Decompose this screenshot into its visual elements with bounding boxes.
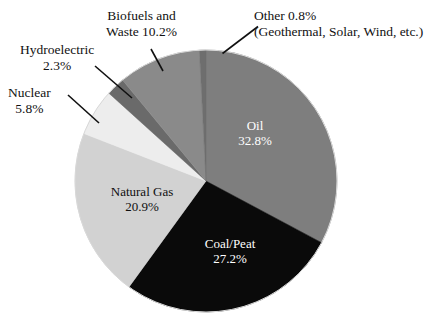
slice-label-coal-peat-line1: Coal/Peat bbox=[205, 236, 256, 251]
slice-label-nuclear: Nuclear 5.8% bbox=[8, 85, 51, 116]
leader-line-other bbox=[223, 27, 259, 54]
slice-label-oil: Oil 32.8% bbox=[218, 118, 292, 148]
slice-label-natural-gas-line2: 20.9% bbox=[88, 199, 196, 214]
slice-label-nuclear-line2: 5.8% bbox=[8, 101, 51, 117]
slice-label-hydroelectric-line1: Hydroelectric bbox=[20, 42, 94, 57]
slice-label-biofuels-line2: Waste 10.2% bbox=[106, 24, 177, 40]
pie-slices-group bbox=[75, 50, 337, 312]
slice-label-other-line2: (Geothermal, Solar, Wind, etc.) bbox=[254, 24, 423, 40]
slice-label-coal-peat-line2: 27.2% bbox=[175, 251, 285, 266]
slice-label-coal-peat: Coal/Peat 27.2% bbox=[175, 236, 285, 266]
slice-label-natural-gas: Natural Gas 20.9% bbox=[88, 184, 196, 214]
slice-label-oil-line1: Oil bbox=[247, 118, 264, 133]
slice-label-other: Other 0.8% (Geothermal, Solar, Wind, etc… bbox=[254, 8, 423, 39]
slice-label-hydroelectric: Hydroelectric 2.3% bbox=[20, 42, 94, 73]
slice-label-hydroelectric-line2: 2.3% bbox=[20, 58, 94, 74]
slice-label-biofuels-line1: Biofuels and bbox=[107, 8, 176, 23]
slice-label-natural-gas-line1: Natural Gas bbox=[111, 184, 173, 199]
slice-label-nuclear-line1: Nuclear bbox=[8, 85, 51, 100]
slice-label-oil-line2: 32.8% bbox=[218, 133, 292, 148]
pie-chart-figure: Biofuels and Waste 10.2% Other 0.8% (Geo… bbox=[0, 0, 433, 326]
leader-line-nuclear bbox=[68, 95, 99, 123]
slice-label-other-line1: Other 0.8% bbox=[254, 8, 316, 23]
slice-label-biofuels-waste: Biofuels and Waste 10.2% bbox=[106, 8, 177, 39]
